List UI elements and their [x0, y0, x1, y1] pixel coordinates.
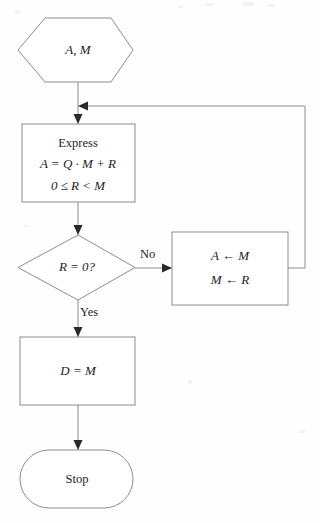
input-node-label: A, M: [64, 42, 91, 57]
arrowhead-into-stop: [74, 440, 83, 450]
express-node-line1: Express: [58, 136, 98, 150]
stop-node-label: Stop: [66, 472, 89, 486]
arrowhead-into-express: [74, 114, 83, 124]
flowchart-canvas: A, M Express A = Q · M + R 0 ≤ R < M R =…: [0, 0, 320, 523]
result-node-label: D = M: [59, 363, 97, 378]
express-node-line2: A = Q · M + R: [39, 156, 116, 171]
express-node-line3: 0 ≤ R < M: [51, 178, 106, 193]
decision-node-label: R = 0?: [58, 259, 96, 274]
edge-label-no: No: [140, 247, 155, 261]
update-node-line1: A ← M: [210, 248, 250, 263]
arrowhead-feedback-into-trunk: [78, 102, 88, 111]
flowchart-page: A, M Express A = Q · M + R 0 ≤ R < M R =…: [0, 0, 320, 523]
update-node-line2: M ← R: [210, 272, 249, 287]
edge-label-yes: Yes: [80, 305, 98, 319]
arrowhead-into-update: [162, 264, 172, 273]
arrowhead-into-decision: [74, 225, 83, 235]
arrowhead-into-result: [74, 327, 83, 337]
update-assignment-node[interactable]: [172, 232, 288, 305]
